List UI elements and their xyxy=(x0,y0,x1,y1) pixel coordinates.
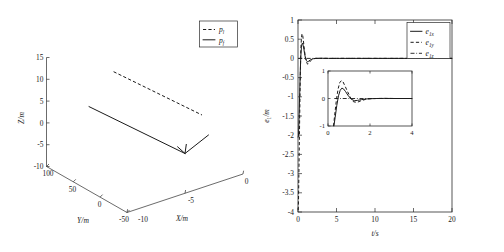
z-tick-label: 0 xyxy=(40,119,44,128)
inset-chart: 0 2 4 1 0 -1 xyxy=(320,67,415,135)
y-tick-label: 0 xyxy=(98,200,102,209)
x-tick-label: -10 xyxy=(138,215,148,224)
y-tick-label: 0.5 xyxy=(285,35,295,44)
y-tick-label: 0 xyxy=(290,54,294,63)
y-tick-label: -4 xyxy=(288,208,294,217)
figure-container: 15 10 5 0 -5 -10 Z/m 100 50 0 -50 Y/m xyxy=(0,0,504,252)
x-axis-tick-labels: -10 -5 0 xyxy=(138,177,249,224)
z-tick-label: 10 xyxy=(36,75,44,84)
y-tick-label: -2.5 xyxy=(282,150,294,159)
chart-3d-svg: 15 10 5 0 -5 -10 Z/m 100 50 0 -50 Y/m xyxy=(0,0,252,252)
inset-y-tick-label: 1 xyxy=(322,67,325,74)
y-tick-label: 50 xyxy=(69,185,77,194)
y-tick-label: 100 xyxy=(42,169,53,178)
x-axis-label: X/m xyxy=(175,214,189,223)
chart-3d-legend[interactable]: pl pf xyxy=(200,21,238,47)
x-tick-label: 0 xyxy=(296,215,300,224)
x-tick-label: 5 xyxy=(335,215,339,224)
y-tick-label: -2 xyxy=(288,131,294,140)
x-tick-label: 10 xyxy=(371,215,379,224)
chart-error-svg: 0 5 10 15 20 t/s 1 xyxy=(252,0,504,252)
inset-x-tick-label: 0 xyxy=(326,129,330,136)
y-tick-label: -50 xyxy=(119,215,129,224)
z-axis-ticks xyxy=(47,58,50,167)
y-axis-label: e1/m xyxy=(262,109,272,123)
inset-y-tick-label: 0 xyxy=(322,95,326,102)
inset-x-tick-labels: 0 2 4 xyxy=(326,129,414,136)
y-tick-label: -3.5 xyxy=(282,188,294,197)
chart-error-legend[interactable]: e1x e1y e1z xyxy=(407,23,450,60)
inset-y-tick-label: -1 xyxy=(320,122,326,129)
z-tick-label: 15 xyxy=(36,53,44,62)
y-tick-label: -3 xyxy=(288,169,294,178)
y-tick-label: -1 xyxy=(288,92,294,101)
x-axis-tick-labels: 0 5 10 15 20 xyxy=(296,215,456,224)
y-axis-label: Y/m xyxy=(77,216,89,225)
inset-x-tick-label: 2 xyxy=(368,129,371,136)
z-tick-label: -5 xyxy=(37,140,43,149)
chart-error-time: 0 5 10 15 20 t/s 1 xyxy=(252,0,504,252)
z-axis-label: Z/m xyxy=(17,112,26,124)
y-tick-label: -1.5 xyxy=(282,112,294,121)
series-line-p-f xyxy=(89,107,209,154)
inset-y-tick-labels: 1 0 -1 xyxy=(320,67,326,129)
z-tick-label: 5 xyxy=(40,97,44,106)
x-tick-label: -5 xyxy=(188,196,194,205)
x-axis-label: t/s xyxy=(371,229,378,238)
y-axis-tick-labels: 1 0.5 0 -0.5 -1 -1.5 -2 -2.5 -3 -3.5 -4 xyxy=(282,16,294,217)
chart-3d-trajectory: 15 10 5 0 -5 -10 Z/m 100 50 0 -50 Y/m xyxy=(0,0,252,252)
z-axis-tick-labels: 15 10 5 0 -5 -10 xyxy=(34,53,44,171)
x-tick-label: 20 xyxy=(448,215,456,224)
inset-x-tick-label: 4 xyxy=(410,129,414,136)
y-axis-ticks xyxy=(47,164,130,213)
y-tick-label: 1 xyxy=(290,16,294,25)
y-tick-label: -0.5 xyxy=(282,73,294,82)
series-line-p-l xyxy=(114,72,202,115)
x-tick-label: 0 xyxy=(245,177,249,186)
x-tick-label: 15 xyxy=(410,215,418,224)
y-axis-line xyxy=(47,167,128,213)
x-axis-ticks xyxy=(127,171,244,213)
